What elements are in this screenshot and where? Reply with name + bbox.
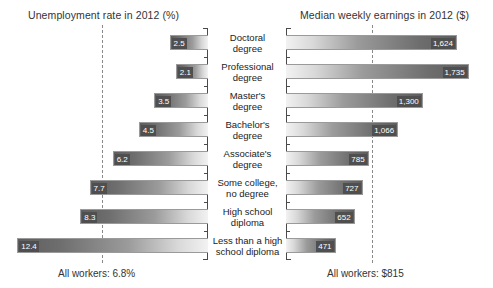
category-label: Less than a highschool diploma xyxy=(209,235,286,257)
category-tick xyxy=(286,231,290,232)
unemployment-bar: 12.4 xyxy=(17,238,208,253)
category-label-line2: degree xyxy=(209,130,286,141)
category-label: Associate'sdegree xyxy=(209,148,286,170)
unemployment-bar-value: 2.1 xyxy=(178,67,193,78)
unemployment-bar-value: 4.5 xyxy=(141,125,156,136)
category-label-line1: Professional xyxy=(209,61,286,72)
earnings-bar-value: 1,300 xyxy=(397,96,421,107)
category-label: Doctoraldegree xyxy=(209,32,286,54)
earnings-bar-value: 471 xyxy=(316,241,333,252)
category-tick xyxy=(286,86,290,87)
earnings-bar-value: 727 xyxy=(343,183,360,194)
right-reference-line-label: All workers: $815 xyxy=(327,268,404,279)
category-label-line1: Master's xyxy=(209,90,286,101)
category-tick xyxy=(286,144,290,145)
unemployment-bar: 6.2 xyxy=(113,151,208,166)
category-label: Bachelor'sdegree xyxy=(209,119,286,141)
category-label-line2: degree xyxy=(209,101,286,112)
unemployment-bar-value: 2.5 xyxy=(172,38,187,49)
right-panel-title: Median weekly earnings in 2012 ($) xyxy=(300,9,469,21)
unemployment-bar-value: 3.5 xyxy=(156,96,171,107)
category-label: Professionaldegree xyxy=(209,61,286,83)
unemployment-bar-value: 12.4 xyxy=(19,241,39,252)
category-label-line1: Less than a high xyxy=(209,235,286,246)
earnings-plot: 1,6241,7351,3001,066785727652471 xyxy=(286,28,486,260)
left-reference-line xyxy=(102,25,103,263)
category-tick xyxy=(286,57,290,58)
earnings-bar: 1,624 xyxy=(286,35,457,50)
category-tick xyxy=(204,173,208,174)
earnings-bar: 1,066 xyxy=(286,122,398,137)
unemployment-bar-value: 6.2 xyxy=(115,154,130,165)
unemployment-plot: 2.52.13.54.56.27.78.312.4 xyxy=(8,28,208,260)
category-label-line1: Associate's xyxy=(209,148,286,159)
category-tick xyxy=(204,57,208,58)
earnings-bar-value: 1,066 xyxy=(372,125,396,136)
category-label-line1: Doctoral xyxy=(209,32,286,43)
earnings-bar: 652 xyxy=(286,209,355,224)
unemployment-bar: 7.7 xyxy=(90,180,208,195)
category-label-line1: Some college, xyxy=(209,177,286,188)
earnings-bar: 471 xyxy=(286,238,336,253)
earnings-bar-value: 1,735 xyxy=(443,67,467,78)
category-tick xyxy=(286,202,290,203)
category-tick xyxy=(286,173,290,174)
right-axis-cap-bottom xyxy=(286,259,291,260)
unemployment-bar: 3.5 xyxy=(154,93,208,108)
right-axis-cap-top xyxy=(286,28,291,29)
unemployment-bar-value: 7.7 xyxy=(92,183,107,194)
right-reference-line xyxy=(372,25,373,263)
category-label: Some college,no degree xyxy=(209,177,286,199)
category-label-line1: Bachelor's xyxy=(209,119,286,130)
left-axis-cap-bottom xyxy=(203,259,208,260)
unemployment-bar: 2.5 xyxy=(170,35,208,50)
earnings-bar: 785 xyxy=(286,151,369,166)
left-panel-title: Unemployment rate in 2012 (%) xyxy=(28,9,179,21)
category-tick xyxy=(204,115,208,116)
left-reference-line-label: All workers: 6.8% xyxy=(58,268,135,279)
unemployment-bar: 8.3 xyxy=(80,209,208,224)
unemployment-bar: 4.5 xyxy=(139,122,208,137)
category-label-line2: degree xyxy=(209,43,286,54)
earnings-bar-value: 652 xyxy=(335,212,352,223)
category-label-line2: diploma xyxy=(209,217,286,228)
category-tick xyxy=(204,231,208,232)
earnings-bar: 1,735 xyxy=(286,64,469,79)
category-label: High schooldiploma xyxy=(209,206,286,228)
category-tick xyxy=(204,144,208,145)
category-label: Master'sdegree xyxy=(209,90,286,112)
category-label-line2: school diploma xyxy=(209,246,286,257)
category-label-line2: degree xyxy=(209,72,286,83)
earnings-bar: 1,300 xyxy=(286,93,423,108)
category-label-line1: High school xyxy=(209,206,286,217)
unemployment-bar-value: 8.3 xyxy=(82,212,97,223)
category-label-line2: degree xyxy=(209,159,286,170)
earnings-bar-value: 785 xyxy=(349,154,366,165)
category-label-line2: no degree xyxy=(209,188,286,199)
left-axis-cap-top xyxy=(203,28,208,29)
category-tick xyxy=(286,115,290,116)
unemployment-bar: 2.1 xyxy=(176,64,208,79)
category-tick xyxy=(204,86,208,87)
category-tick xyxy=(204,202,208,203)
education-earnings-unemployment-chart: Unemployment rate in 2012 (%) Median wee… xyxy=(0,0,493,288)
earnings-bar-value: 1,624 xyxy=(431,38,455,49)
earnings-bar: 727 xyxy=(286,180,363,195)
category-label-column: DoctoraldegreeProfessionaldegreeMaster's… xyxy=(209,28,286,260)
